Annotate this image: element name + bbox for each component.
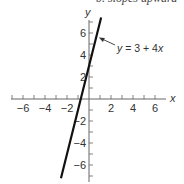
equation-label: y = 3 + 4x xyxy=(116,42,164,54)
line-chart: xy −6−4−2246−6−4−2246 y = 3 + 4x xyxy=(0,0,184,184)
x-axis-label: x xyxy=(169,92,176,104)
y-axis-label: y xyxy=(84,6,92,18)
y-tick-label: 4 xyxy=(80,49,86,61)
arrow-icon xyxy=(99,37,105,42)
axes: xy xyxy=(11,6,176,182)
y-tick-label: −6 xyxy=(73,159,86,171)
x-tick-label: 2 xyxy=(108,102,114,114)
x-tick-label: −2 xyxy=(61,102,74,114)
x-tick-label: 4 xyxy=(130,102,136,114)
y-tick-label: −4 xyxy=(73,137,86,149)
x-tick-label: 6 xyxy=(152,102,158,114)
x-tick-label: −4 xyxy=(39,102,52,114)
y-tick-label: 6 xyxy=(80,27,86,39)
x-tick-label: −6 xyxy=(17,102,30,114)
annotation: y = 3 + 4x xyxy=(99,37,164,54)
